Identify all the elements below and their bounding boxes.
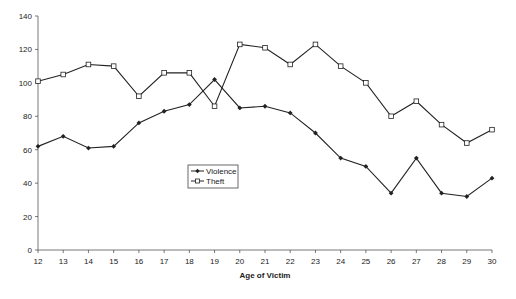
data-point <box>263 45 268 50</box>
series-theft <box>36 42 495 145</box>
y-tick-label: 80 <box>23 112 32 121</box>
y-tick-label: 140 <box>19 12 33 21</box>
legend-label-theft: Theft <box>206 177 225 186</box>
data-point <box>86 62 91 67</box>
y-tick-label: 100 <box>19 79 33 88</box>
data-point <box>490 127 495 132</box>
x-tick-label: 24 <box>336 257 345 266</box>
data-point <box>439 122 444 127</box>
x-tick-label: 21 <box>261 257 270 266</box>
data-point <box>464 141 469 146</box>
data-point <box>338 64 343 69</box>
data-point <box>162 71 167 76</box>
y-tick-label: 40 <box>23 179 32 188</box>
line-chart: 020406080100120140 121314151617181920212… <box>0 0 516 299</box>
data-point <box>61 134 66 139</box>
x-axis-title: Age of Victim <box>240 271 291 280</box>
y-axis: 020406080100120140 <box>19 12 38 255</box>
x-tick-label: 23 <box>311 257 320 266</box>
y-tick-label: 120 <box>19 45 33 54</box>
data-point <box>86 146 91 151</box>
data-point <box>414 99 419 104</box>
x-tick-label: 14 <box>84 257 93 266</box>
data-point <box>389 114 394 119</box>
data-point <box>288 62 293 67</box>
x-axis: 12131415161718192021222324252627282930 <box>34 250 497 266</box>
data-point <box>111 64 116 69</box>
x-tick-label: 20 <box>235 257 244 266</box>
x-tick-label: 19 <box>210 257 219 266</box>
x-tick-label: 27 <box>412 257 421 266</box>
x-tick-label: 12 <box>34 257 43 266</box>
x-tick-label: 13 <box>59 257 68 266</box>
series-violence <box>36 77 495 199</box>
x-tick-label: 28 <box>437 257 446 266</box>
x-tick-label: 18 <box>185 257 194 266</box>
y-tick-label: 0 <box>28 246 33 255</box>
data-point <box>162 109 167 114</box>
data-point <box>313 42 318 47</box>
data-point <box>212 104 217 109</box>
data-point <box>61 72 66 77</box>
x-tick-label: 29 <box>462 257 471 266</box>
x-tick-label: 22 <box>286 257 295 266</box>
series-layer <box>36 42 495 199</box>
data-point <box>187 71 192 76</box>
x-tick-label: 30 <box>488 257 497 266</box>
y-tick-label: 20 <box>23 213 32 222</box>
x-tick-label: 15 <box>109 257 118 266</box>
x-tick-label: 17 <box>160 257 169 266</box>
legend: Violence Theft <box>188 165 238 188</box>
data-point <box>263 104 268 109</box>
data-point <box>237 42 242 47</box>
open-square-icon <box>196 179 200 183</box>
x-tick-label: 26 <box>387 257 396 266</box>
data-point <box>137 94 142 99</box>
x-tick-label: 16 <box>134 257 143 266</box>
x-tick-label: 25 <box>361 257 370 266</box>
data-point <box>36 79 41 84</box>
legend-label-violence: Violence <box>206 167 237 176</box>
y-tick-label: 60 <box>23 146 32 155</box>
data-point <box>364 81 369 86</box>
data-point <box>36 144 41 149</box>
